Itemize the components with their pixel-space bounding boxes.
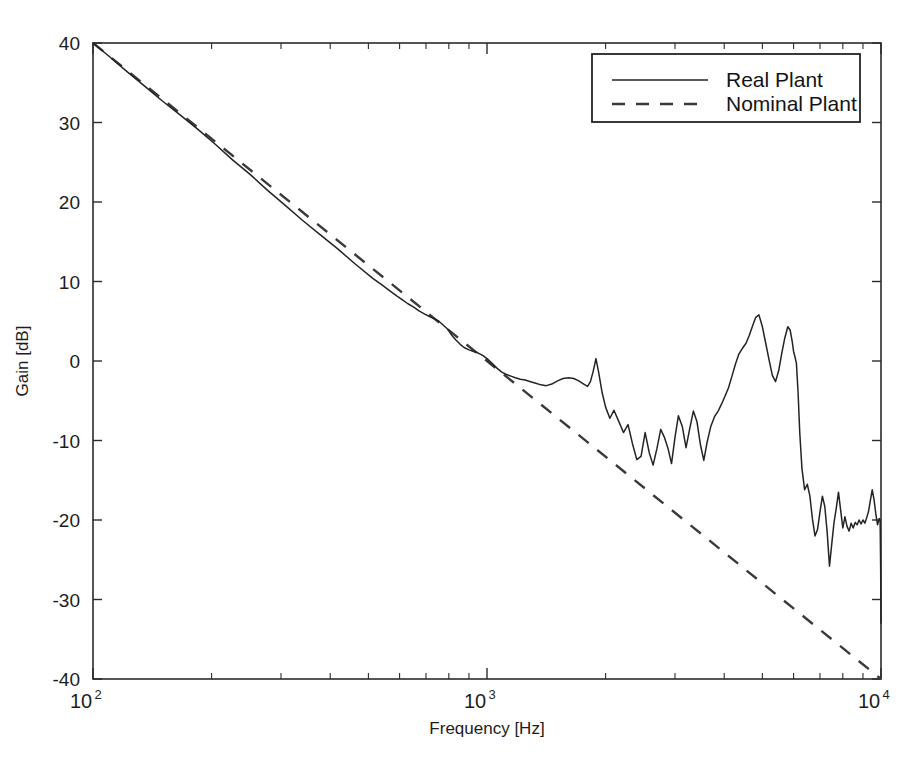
- y-axis-title: Gain [dB]: [13, 326, 32, 397]
- y-axis-tick-labels: 403020100-10-20-30-40: [53, 33, 80, 690]
- x-axis-minor-ticks: [212, 43, 863, 679]
- y-tick-label: -20: [53, 510, 80, 531]
- bode-magnitude-plot: 403020100-10-20-30-40 102103104 Real Pla…: [0, 0, 924, 771]
- x-tick-label-base: 10: [70, 690, 92, 712]
- y-tick-label: 30: [59, 113, 80, 134]
- y-tick-label: 0: [69, 351, 80, 372]
- y-tick-label: 20: [59, 192, 80, 213]
- legend-label-nominal-plant: Nominal Plant: [726, 92, 857, 115]
- x-tick-label-base: 10: [858, 690, 880, 712]
- x-tick-label-base: 10: [464, 690, 486, 712]
- y-tick-label: -30: [53, 590, 80, 611]
- y-tick-label: -10: [53, 431, 80, 452]
- x-tick-label-exponent: 3: [488, 687, 495, 702]
- y-tick-label: -40: [53, 669, 80, 690]
- y-tick-label: 10: [59, 272, 80, 293]
- x-tick-label-exponent: 4: [882, 687, 889, 702]
- series-line-nominal-plant: [93, 43, 881, 679]
- legend: Real Plant Nominal Plant: [592, 54, 860, 122]
- x-axis-tick-labels: 102103104: [70, 687, 890, 712]
- series-line-real-plant: [93, 43, 881, 623]
- figure-container: 403020100-10-20-30-40 102103104 Real Pla…: [0, 0, 924, 771]
- legend-label-real-plant: Real Plant: [726, 68, 823, 91]
- y-tick-label: 40: [59, 33, 80, 54]
- x-axis-title: Frequency [Hz]: [429, 719, 544, 738]
- x-tick-label-exponent: 2: [94, 687, 101, 702]
